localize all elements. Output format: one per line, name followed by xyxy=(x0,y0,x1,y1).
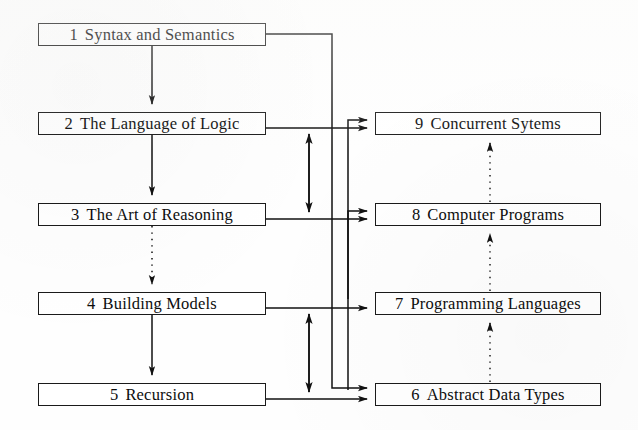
node-title: Recursion xyxy=(125,385,194,405)
node-title: Abstract Data Types xyxy=(427,385,565,405)
node-number: 3 xyxy=(71,205,79,225)
node-ch1[interactable]: 1 Syntax and Semantics xyxy=(38,23,266,46)
node-ch2[interactable]: 2 The Language of Logic xyxy=(38,112,266,135)
node-number: 4 xyxy=(87,294,95,314)
node-number: 7 xyxy=(395,294,403,314)
node-number: 8 xyxy=(412,205,420,225)
node-title: Computer Programs xyxy=(427,205,564,225)
node-ch3[interactable]: 3 The Art of Reasoning xyxy=(38,203,266,226)
node-ch9[interactable]: 9 Concurrent Sytems xyxy=(375,112,601,135)
node-number: 9 xyxy=(415,114,423,134)
node-ch8[interactable]: 8 Computer Programs xyxy=(375,203,601,226)
node-title: The Art of Reasoning xyxy=(86,205,233,225)
node-ch6[interactable]: 6 Abstract Data Types xyxy=(375,383,601,406)
node-title: Syntax and Semantics xyxy=(85,25,235,45)
diagram-canvas: 1 Syntax and Semantics 2 The Language of… xyxy=(0,0,638,430)
edge-ch6-to-ch8 xyxy=(348,211,367,390)
node-title: The Language of Logic xyxy=(80,114,240,134)
node-title: Programming Languages xyxy=(410,294,581,314)
node-number: 6 xyxy=(411,385,419,405)
node-number: 2 xyxy=(65,114,73,134)
node-number: 5 xyxy=(110,385,118,405)
node-title: Building Models xyxy=(103,294,217,314)
node-number: 1 xyxy=(69,25,77,45)
node-title: Concurrent Sytems xyxy=(431,114,561,134)
node-ch4[interactable]: 4 Building Models xyxy=(38,292,266,315)
node-ch7[interactable]: 7 Programming Languages xyxy=(375,292,601,315)
node-ch5[interactable]: 5 Recursion xyxy=(38,383,266,406)
edge-ch7-to-ch9 xyxy=(348,120,367,299)
